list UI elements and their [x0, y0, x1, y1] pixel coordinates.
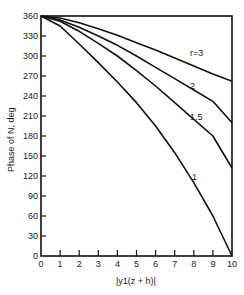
series-label: 1: [192, 172, 197, 182]
curve-1: [41, 16, 232, 256]
phase-chart: 0306090120150180210240270300330360 01234…: [0, 0, 244, 295]
plot-frame: [41, 16, 232, 256]
series-label: r=3: [190, 48, 203, 58]
y-tick-label: 150: [23, 151, 38, 161]
x-tick-label: 8: [191, 259, 196, 269]
y-axis-label: Phase of N, deg: [6, 107, 16, 172]
curve-1.5: [41, 16, 232, 168]
y-tick-label: 240: [23, 91, 38, 101]
y-tick-label: 210: [23, 111, 38, 121]
series-label: 1.5: [190, 112, 203, 122]
y-tick-label: 360: [23, 11, 38, 21]
y-tick-label: 180: [23, 131, 38, 141]
x-tick-label: 6: [153, 259, 158, 269]
x-axis-ticks: 012345678910: [38, 250, 237, 269]
y-tick-label: 30: [28, 231, 38, 241]
x-tick-label: 5: [134, 259, 139, 269]
y-axis-ticks: 0306090120150180210240270300330360: [23, 11, 46, 261]
x-tick-label: 0: [38, 259, 43, 269]
x-tick-label: 3: [96, 259, 101, 269]
y-tick-label: 120: [23, 171, 38, 181]
y-tick-label: 0: [33, 251, 38, 261]
x-tick-label: 2: [77, 259, 82, 269]
y-tick-label: 60: [28, 211, 38, 221]
series-label: 2: [190, 81, 195, 91]
y-tick-label: 330: [23, 31, 38, 41]
x-tick-label: 10: [227, 259, 237, 269]
curves: [41, 16, 232, 256]
x-tick-label: 4: [115, 259, 120, 269]
x-tick-label: 7: [172, 259, 177, 269]
y-tick-label: 300: [23, 51, 38, 61]
series-labels: r=321.51: [190, 48, 203, 182]
x-axis-label: |y1(z + h)|: [116, 276, 156, 286]
y-tick-label: 270: [23, 71, 38, 81]
x-tick-label: 1: [58, 259, 63, 269]
y-tick-label: 90: [28, 191, 38, 201]
x-tick-label: 9: [210, 259, 215, 269]
